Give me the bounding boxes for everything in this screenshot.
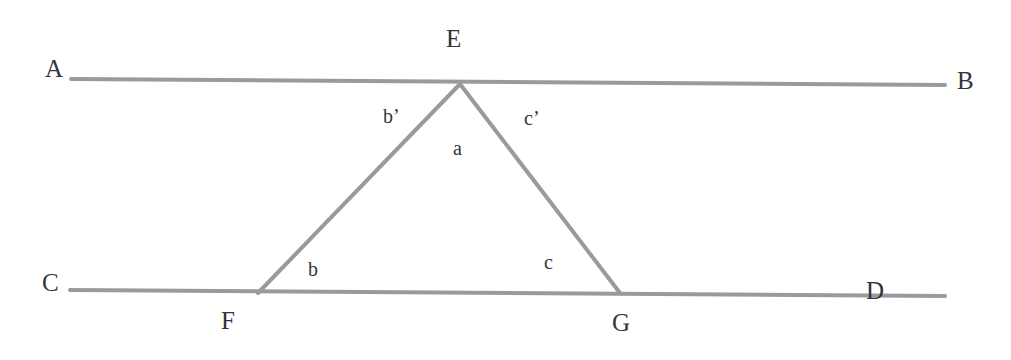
angle-label-b-prime: b’	[383, 106, 400, 126]
angle-label-c: c	[544, 252, 553, 272]
triangle-side-EG	[460, 84, 620, 293]
vertex-label-f: F	[221, 308, 235, 333]
angle-label-b: b	[308, 259, 318, 279]
vertex-label-g: G	[612, 310, 630, 335]
vertex-label-c: C	[42, 270, 59, 295]
geometry-diagram: A B C D E F G b’ c’ a b c	[0, 0, 1011, 360]
triangle-side-EF	[258, 84, 460, 293]
vertex-label-a: A	[45, 56, 63, 81]
vertex-label-e: E	[446, 26, 461, 51]
angle-label-a: a	[453, 138, 462, 158]
line-segment-AB	[71, 79, 945, 85]
geometry-canvas	[0, 0, 1011, 360]
line-segment-CD	[70, 290, 945, 296]
vertex-label-d: D	[866, 278, 884, 303]
angle-label-c-prime: c’	[524, 108, 540, 128]
vertex-label-b: B	[957, 68, 974, 93]
